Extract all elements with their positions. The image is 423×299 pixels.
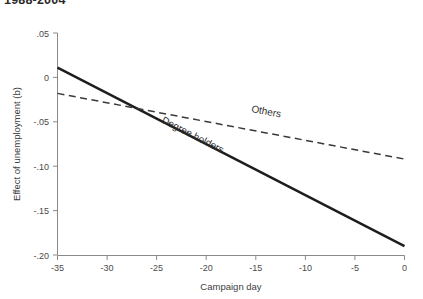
x-tick-label: -15 xyxy=(249,263,262,273)
y-tick-label: -.15 xyxy=(33,206,49,216)
x-tick-label: -20 xyxy=(200,263,213,273)
x-tick-label: -10 xyxy=(299,263,312,273)
x-axis: -35 -30 -25 -20 -15 -10 -5 0 Campaign da… xyxy=(51,256,407,293)
line-chart: .05 0 -.05 -.10 -.15 -.20 Effect of unem… xyxy=(0,0,423,299)
series-annotations: Others Degree holders xyxy=(160,103,282,155)
series-line-degree-holders xyxy=(58,68,405,246)
y-tick-label: 0 xyxy=(44,73,49,83)
figure-panel: 1988-2004 .05 0 -.05 -.10 -.15 -.20 Effe… xyxy=(0,0,423,299)
y-tick-label: .05 xyxy=(36,29,49,39)
x-axis-title: Campaign day xyxy=(200,281,262,292)
y-tick-label: -.10 xyxy=(33,162,49,172)
x-tick-label: 0 xyxy=(402,263,407,273)
y-axis: .05 0 -.05 -.10 -.15 -.20 Effect of unem… xyxy=(11,29,58,261)
x-tick-label: -25 xyxy=(150,263,163,273)
x-tick-label: -35 xyxy=(51,263,64,273)
x-tick-label: -5 xyxy=(351,263,359,273)
x-tick-label: -30 xyxy=(101,263,114,273)
series-group xyxy=(58,68,405,246)
series-line-others xyxy=(58,93,405,159)
y-tick-label: -.05 xyxy=(33,117,49,127)
series-label-others: Others xyxy=(251,103,283,119)
y-tick-label: -.20 xyxy=(33,251,49,261)
series-label-degree-holders: Degree holders xyxy=(160,114,226,155)
y-axis-title: Effect of unemployment (b) xyxy=(11,87,22,201)
